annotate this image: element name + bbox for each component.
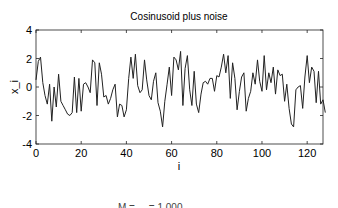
x-tick-label: 0 (33, 147, 39, 159)
cropped-caption: M = ... = 1.000 (118, 202, 182, 208)
x-tick-label: 80 (211, 147, 223, 159)
y-tick-label: 2 (26, 53, 32, 65)
y-tick-label: 0 (26, 81, 32, 93)
y-axis-label: x_i (8, 80, 20, 94)
x-tick-label: 60 (165, 147, 177, 159)
y-tick-label: -4 (22, 138, 32, 150)
line-chart: Cosinusoid plus noise -4-2024 0204060801… (0, 0, 338, 208)
x-tick-label: 120 (298, 147, 316, 159)
y-tick-label: -2 (22, 110, 32, 122)
x-tick-label: 20 (75, 147, 87, 159)
x-tick-label: 100 (253, 147, 271, 159)
chart-title: Cosinusoid plus noise (130, 11, 228, 22)
x-tick-label: 40 (120, 147, 132, 159)
x-axis-label: i (178, 160, 180, 172)
y-tick-label: 4 (26, 24, 32, 36)
